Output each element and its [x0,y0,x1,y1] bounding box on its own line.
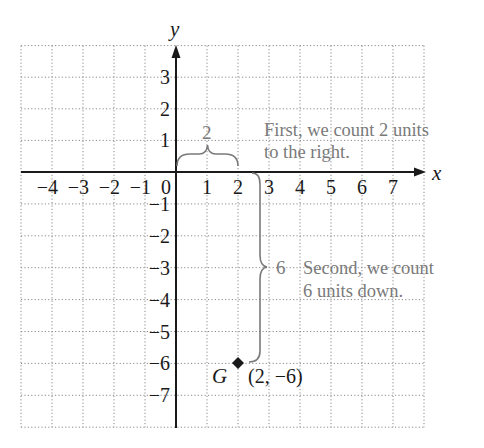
y-axis-label: y [168,17,180,41]
vertical-annotation-line-1: Second, we count [303,258,435,278]
y-tick-labels: 321−1−2−3−4−5−6−7 [149,66,170,406]
y-tick-label: 3 [160,66,170,88]
coordinate-plane-figure: x y −4−3−2−101234567 321−1−2−3−4−5−6−7 2… [0,0,484,448]
x-axis-label: x [431,161,442,185]
y-tick-label: −6 [149,352,170,374]
point-g: G (2, −6) [212,357,303,388]
axes: x y [21,17,442,428]
x-tick-label: −3 [68,176,89,198]
horizontal-brace-label: 2 [202,122,212,143]
x-tick-labels: −4−3−2−101234567 [37,176,398,198]
x-tick-label: 3 [264,176,274,198]
horizontal-annotation-line-2: to the right. [264,142,350,162]
x-tick-label: 1 [202,176,212,198]
x-tick-label: 6 [357,176,367,198]
x-tick-label: −2 [99,176,120,198]
point-marker-icon [232,357,244,369]
y-tick-label: −5 [149,321,170,343]
vertical-brace-label: 6 [276,257,286,278]
point-coordinates: (2, −6) [248,365,303,388]
point-name: G [212,364,227,388]
y-axis-arrow-icon [172,45,181,58]
y-tick-label: −4 [149,289,170,311]
vertical-brace [249,173,267,362]
horizontal-annotation-line-1: First, we count 2 units [264,120,429,140]
x-tick-label: 5 [326,176,336,198]
y-tick-label: 1 [160,129,170,151]
vertical-annotation-line-2: 6 units down. [303,281,403,301]
x-tick-label: −4 [37,176,58,198]
y-tick-label: −1 [149,193,170,215]
y-tick-label: 2 [160,98,170,120]
x-tick-label: 7 [388,176,398,198]
y-tick-label: −2 [149,225,170,247]
x-tick-label: 2 [233,176,243,198]
x-tick-label: 4 [295,176,305,198]
y-tick-label: −3 [149,257,170,279]
y-tick-label: −7 [149,384,170,406]
